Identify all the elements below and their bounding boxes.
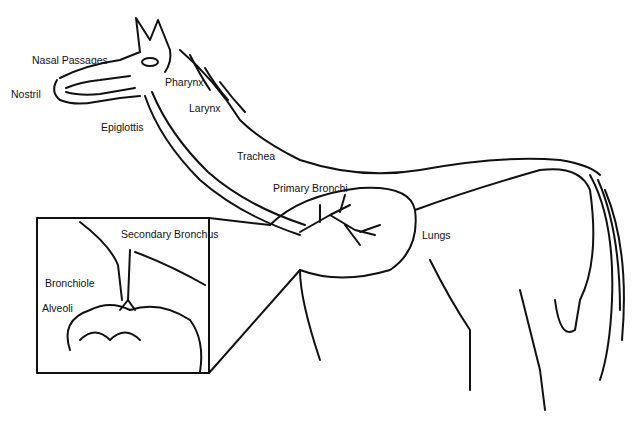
label-lungs: Lungs <box>422 229 451 241</box>
label-primary-bronchi: Primary Bronchi <box>273 182 348 194</box>
label-pharynx: Pharynx <box>165 76 204 88</box>
tail <box>590 175 624 380</box>
inset-box <box>37 218 209 373</box>
label-larynx: Larynx <box>189 102 221 114</box>
label-alveoli: Alveoli <box>42 302 73 314</box>
trachea <box>145 92 305 235</box>
label-nasal-passages: Nasal Passages <box>32 54 108 66</box>
label-bronchiole: Bronchiole <box>45 277 95 289</box>
bronchi <box>300 195 380 245</box>
label-nostril: Nostril <box>11 88 41 100</box>
label-trachea: Trachea <box>237 150 275 162</box>
horse-body <box>300 169 593 410</box>
label-epiglottis: Epiglottis <box>101 121 144 133</box>
alveoli <box>68 300 202 372</box>
label-secondary-bronchus: Secondary Bronchus <box>121 228 218 240</box>
